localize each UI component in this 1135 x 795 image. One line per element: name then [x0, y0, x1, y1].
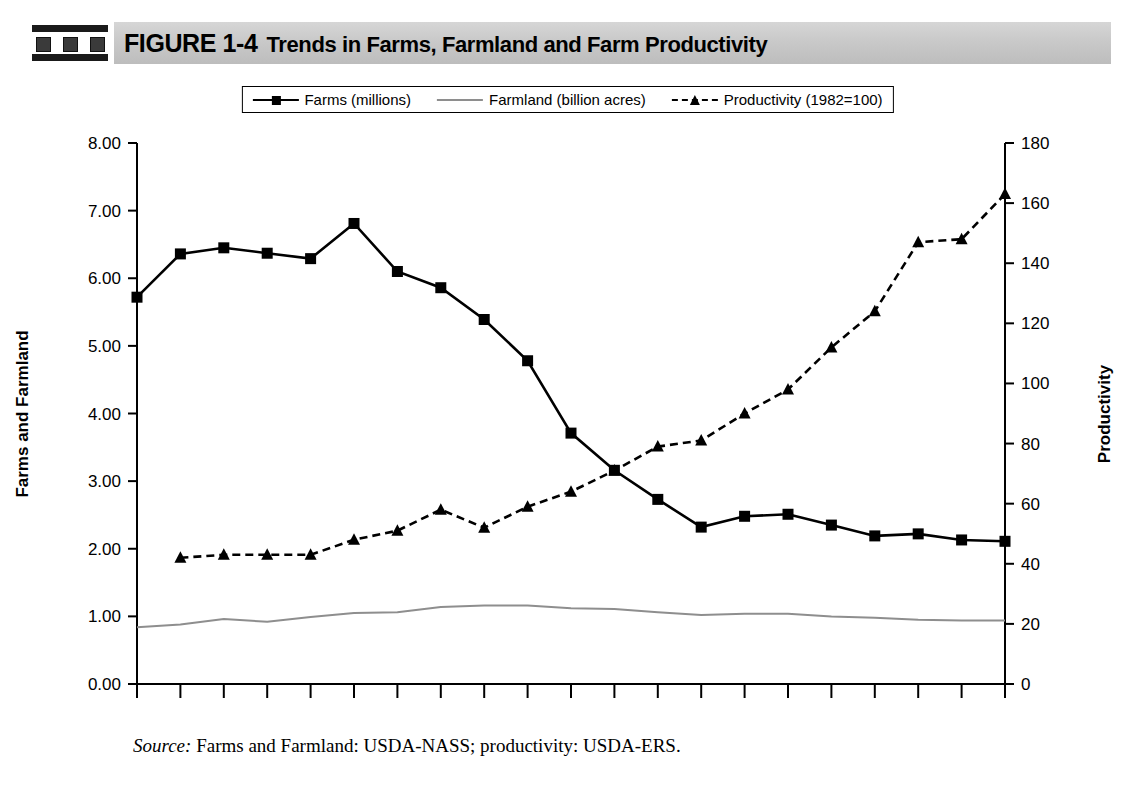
- data-point-square: [869, 530, 880, 541]
- data-point-square: [435, 282, 446, 293]
- data-point-square: [349, 218, 360, 229]
- left-tick-label: 3.00: [88, 472, 121, 491]
- source-text: Farms and Farmland: USDA-NASS; productiv…: [196, 735, 681, 756]
- square-marker-icon: [271, 96, 280, 105]
- data-point-triangle: [912, 236, 924, 248]
- left-tick-label: 2.00: [88, 540, 121, 559]
- data-point-square: [262, 248, 273, 259]
- legend-item-farms[interactable]: Farms (millions): [252, 91, 411, 108]
- data-point-square: [305, 253, 316, 264]
- data-point-square: [1000, 536, 1011, 547]
- data-point-square: [956, 534, 967, 545]
- right-axis-ticks: 020406080100120140160180: [1005, 134, 1049, 694]
- data-point-square: [826, 520, 837, 531]
- data-point-triangle: [739, 407, 751, 419]
- left-tick-label: 6.00: [88, 269, 121, 288]
- data-point-square: [783, 509, 794, 520]
- right-tick-label: 80: [1021, 435, 1040, 454]
- left-axis-ticks: 0.001.002.003.004.005.006.007.008.00: [88, 134, 137, 694]
- data-point-triangle: [869, 305, 881, 317]
- legend-item-productivity[interactable]: Productivity (1982=100): [672, 91, 883, 108]
- x-axis-ticks: 1900102025303540455054596469747882879297…: [118, 684, 1024, 700]
- y-axis-label-right: Productivity: [1095, 364, 1114, 463]
- data-point-square: [522, 355, 533, 366]
- triangle-marker-icon: [690, 95, 700, 105]
- data-series-layer: [132, 188, 1012, 628]
- left-tick-label: 8.00: [88, 134, 121, 153]
- data-point-square: [652, 494, 663, 505]
- figure-title-text: Trends in Farms, Farmland and Farm Produ…: [267, 32, 768, 58]
- data-point-square: [175, 248, 186, 259]
- chart-plot-area: 0.001.002.003.004.005.006.007.008.00 020…: [0, 120, 1135, 700]
- data-point-square: [132, 292, 143, 303]
- legend-item-farmland[interactable]: Farmland (billion acres): [437, 91, 646, 108]
- left-tick-label: 1.00: [88, 607, 121, 626]
- axes-group: [137, 143, 1005, 684]
- data-point-triangle: [565, 485, 577, 497]
- data-point-triangle: [999, 188, 1011, 200]
- right-tick-label: 140: [1021, 254, 1049, 273]
- series-line-farmland: [137, 606, 1005, 628]
- film-strip-top: [32, 25, 108, 32]
- right-tick-label: 0: [1021, 675, 1030, 694]
- right-tick-label: 180: [1021, 134, 1049, 153]
- film-strip-bottom: [32, 54, 108, 61]
- data-point-square: [392, 266, 403, 277]
- data-point-square: [913, 528, 924, 539]
- data-point-square: [739, 511, 750, 522]
- figure-title-group: FIGURE 1-4 Trends in Farms, Farmland and…: [124, 29, 767, 58]
- right-tick-label: 100: [1021, 374, 1049, 393]
- film-strip-icon: [26, 22, 114, 64]
- figure-header: FIGURE 1-4 Trends in Farms, Farmland and…: [26, 22, 1111, 64]
- legend-label-farms: Farms (millions): [304, 91, 411, 108]
- series-line-productivity: [180, 194, 1005, 558]
- right-tick-label: 40: [1021, 555, 1040, 574]
- left-tick-label: 5.00: [88, 337, 121, 356]
- chart-legend: Farms (millions) Farmland (billion acres…: [241, 86, 893, 113]
- right-tick-label: 160: [1021, 194, 1049, 213]
- left-tick-label: 7.00: [88, 202, 121, 221]
- data-point-square: [696, 522, 707, 533]
- right-tick-label: 20: [1021, 615, 1040, 634]
- legend-swatch-farms: [252, 93, 298, 107]
- data-point-square: [566, 428, 577, 439]
- left-tick-label: 0.00: [88, 675, 121, 694]
- data-point-square: [479, 314, 490, 325]
- source-note: Source: Farms and Farmland: USDA-NASS; p…: [133, 735, 681, 757]
- legend-swatch-productivity: [672, 93, 718, 107]
- left-tick-label: 4.00: [88, 405, 121, 424]
- data-point-triangle: [782, 383, 794, 395]
- legend-label-productivity: Productivity (1982=100): [724, 91, 883, 108]
- legend-label-farmland: Farmland (billion acres): [489, 91, 646, 108]
- right-tick-label: 120: [1021, 314, 1049, 333]
- data-point-square: [218, 242, 229, 253]
- chart-svg: 0.001.002.003.004.005.006.007.008.00 020…: [0, 120, 1135, 700]
- figure-number: FIGURE 1-4: [124, 29, 258, 58]
- film-square-3: [90, 37, 105, 52]
- film-square-2: [63, 37, 78, 52]
- right-tick-label: 60: [1021, 495, 1040, 514]
- film-square-1: [36, 37, 51, 52]
- data-point-triangle: [348, 533, 360, 545]
- legend-swatch-farmland: [437, 93, 483, 107]
- y-axis-label-left: Farms and Farmland: [13, 330, 32, 497]
- source-keyword: Source:: [133, 735, 191, 756]
- data-point-triangle: [435, 503, 447, 514]
